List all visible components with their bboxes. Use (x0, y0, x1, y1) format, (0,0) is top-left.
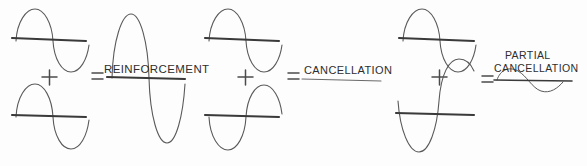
cancellation-top-wave-panel (205, 9, 282, 72)
partial-top-wave-panel (399, 9, 476, 72)
result-label-partial-line1: PARTIAL (505, 49, 551, 61)
input-wave-top-axis (12, 38, 86, 41)
result-flat-line (302, 79, 381, 81)
reinforcement-equals-operator (92, 73, 103, 79)
group-reinforcement: REINFORCEMENT (12, 9, 210, 149)
input-wave-top-axis (399, 38, 474, 41)
reinforcement-plus-operator (42, 70, 57, 85)
input-wave-bottom-axis (205, 115, 279, 117)
group-partial-cancellation: PARTIAL CANCELLATION (396, 9, 579, 152)
diagram-canvas: REINFORCEMENT (0, 0, 587, 166)
result-label-partial-line2: CANCELLATION (494, 62, 579, 74)
cancellation-bottom-wave-panel (205, 85, 282, 150)
input-wave-top-axis (205, 38, 279, 41)
result-wave-axis (494, 80, 572, 81)
cancellation-equals-operator (288, 73, 299, 79)
input-wave-bottom-axis (12, 115, 86, 117)
cancellation-plus-operator (238, 70, 253, 85)
reinforcement-top-wave-panel (12, 9, 89, 72)
wave-interference-diagram: REINFORCEMENT (0, 0, 587, 166)
partial-bottom-wave-panel (396, 59, 474, 152)
partial-equals-operator (482, 76, 493, 82)
cancellation-result-panel (302, 79, 381, 81)
result-label-reinforcement: REINFORCEMENT (104, 63, 210, 75)
input-wave-bottom-path (398, 59, 474, 152)
reinforcement-result-panel (107, 14, 185, 143)
input-wave-bottom-axis (396, 113, 474, 115)
result-label-cancellation: CANCELLATION (304, 64, 392, 76)
group-cancellation: CANCELLATION (205, 9, 392, 150)
reinforcement-bottom-wave-panel (12, 84, 89, 149)
result-wave-axis (107, 77, 185, 79)
